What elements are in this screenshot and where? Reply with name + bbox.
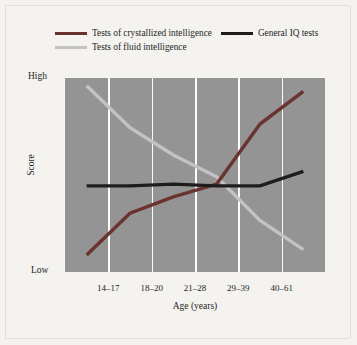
x-axis-tick-labels: 14–1718–2021–2829–3940–61 <box>65 283 325 295</box>
plot-area <box>65 78 325 272</box>
y-axis-high-label: High <box>28 71 47 81</box>
y-axis-title: Score <box>26 130 36 200</box>
series-layer <box>65 78 325 272</box>
x-tick-label-2: 18–20 <box>140 283 163 293</box>
x-axis-title: Age (years) <box>65 301 325 311</box>
x-tick-label-1: 14–17 <box>97 283 120 293</box>
x-tick-label-5: 40–61 <box>270 283 293 293</box>
x-tick-label-4: 29–39 <box>227 283 250 293</box>
x-tick-label-3: 21–28 <box>184 283 207 293</box>
series-line-general-iq-tests <box>87 171 304 186</box>
figure-container: Tests of crystallized intelligence Gener… <box>0 0 357 345</box>
y-axis-low-label: Low <box>31 265 48 275</box>
plot-wrapper: High Low Score 14–1718–2021–2829–3940–61… <box>0 0 357 345</box>
